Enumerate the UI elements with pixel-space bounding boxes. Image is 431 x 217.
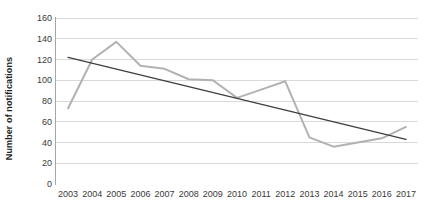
trendline [68, 57, 406, 139]
x-tick-label: 2016 [372, 190, 392, 199]
x-tick-label: 2013 [299, 190, 319, 199]
x-tick-label: 2012 [275, 190, 295, 199]
x-tick-label: 2010 [227, 190, 247, 199]
y-tick-label: 100 [22, 76, 52, 85]
x-tick-label: 2014 [324, 190, 344, 199]
y-axis-title: Number of notifications [0, 0, 18, 217]
x-tick-label: 2003 [58, 190, 78, 199]
y-tick-label: 160 [22, 14, 52, 23]
plot-svg [56, 18, 418, 184]
y-tick-label: 80 [22, 97, 52, 106]
y-tick-label: 140 [22, 34, 52, 43]
x-tick-label: 2017 [396, 190, 416, 199]
y-axis-tick-labels: 020406080100120140160 [22, 0, 52, 217]
y-tick-label: 40 [22, 138, 52, 147]
data-series-line [68, 42, 406, 147]
y-tick-label: 0 [22, 180, 52, 189]
x-tick-label: 2008 [179, 190, 199, 199]
line-chart: Number of notifications 0204060801001201… [0, 0, 431, 217]
gridlines [56, 18, 418, 184]
x-tick-label: 2007 [155, 190, 175, 199]
y-tick-label: 20 [22, 159, 52, 168]
plot-area [56, 18, 418, 184]
x-tick-label: 2006 [130, 190, 150, 199]
x-axis-tick-labels: 2003200420052006200720082009201020112012… [56, 190, 418, 210]
x-tick-label: 2009 [203, 190, 223, 199]
y-tick-label: 60 [22, 117, 52, 126]
x-tick-label: 2011 [251, 190, 270, 199]
x-tick-label: 2005 [106, 190, 126, 199]
x-tick-label: 2015 [348, 190, 368, 199]
y-tick-label: 120 [22, 55, 52, 64]
x-tick-label: 2004 [82, 190, 102, 199]
